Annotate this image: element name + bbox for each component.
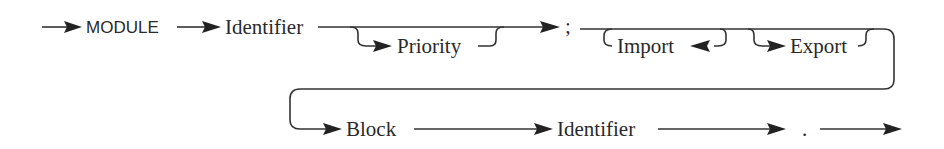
module-syntax-diagram: MODULE Identifier Priority ; Import Expo… bbox=[0, 0, 944, 149]
block-label: Block bbox=[346, 117, 397, 141]
export-label: Export bbox=[790, 34, 847, 58]
keyword-module: MODULE bbox=[86, 18, 159, 37]
period-label: . bbox=[802, 117, 807, 141]
arrow-module-to-identifier bbox=[177, 21, 221, 33]
entry-arrow bbox=[42, 21, 82, 33]
semicolon-label: ; bbox=[565, 14, 571, 38]
import-label: Import bbox=[617, 34, 674, 58]
end-identifier-label: Identifier bbox=[557, 117, 635, 141]
arrow-identifier-to-period bbox=[658, 123, 786, 135]
exit-arrow bbox=[820, 123, 902, 135]
identifier-label: Identifier bbox=[225, 15, 303, 39]
priority-label: Priority bbox=[397, 34, 462, 58]
arrow-block-to-identifier bbox=[414, 123, 553, 135]
